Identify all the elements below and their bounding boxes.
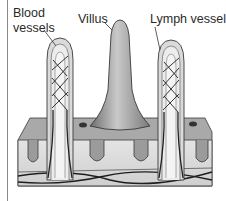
right-villus-cutaway	[158, 40, 184, 180]
center-villus	[90, 20, 150, 130]
label-villus: Villus	[78, 12, 108, 26]
label-blood-vessels-line1: Blood	[13, 6, 45, 20]
label-blood-vessels-line2: vessels	[13, 21, 55, 35]
left-villus-cutaway	[47, 38, 73, 180]
label-lymph-vessel: Lymph vessel	[150, 12, 226, 26]
lymph-vessel-leader-line	[155, 27, 160, 50]
villi-diagram: Blood vessels Villus Lymph vessel	[0, 0, 226, 201]
